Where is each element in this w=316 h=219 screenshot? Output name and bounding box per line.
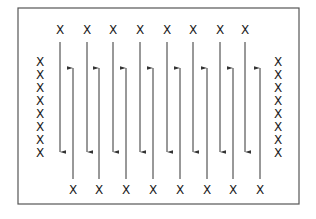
left-x-marker: X: [36, 133, 44, 147]
bottom-x-marker: X: [176, 183, 184, 197]
right-x-marker: X: [274, 94, 282, 108]
flow-diagram: XXXXXXXXXXXXXXXXXXXXXXXXXXXXXXXX: [0, 0, 316, 219]
arrows: [60, 42, 260, 179]
right-x-marker: X: [274, 107, 282, 121]
bottom-x-marker: X: [149, 183, 157, 197]
right-x-marker: X: [274, 55, 282, 69]
left-x-marker: X: [36, 55, 44, 69]
right-x-marker: X: [274, 133, 282, 147]
bottom-x-marker: X: [256, 183, 264, 197]
left-x-marker: X: [36, 146, 44, 160]
left-x-marker: X: [36, 107, 44, 121]
top-x-marker: X: [216, 23, 224, 37]
right-x-marker: X: [274, 68, 282, 82]
right-x-marker: X: [274, 120, 282, 134]
top-x-marker: X: [136, 23, 144, 37]
bottom-x-marker: X: [95, 183, 103, 197]
top-x-marker: X: [163, 23, 171, 37]
top-x-marker: X: [83, 23, 91, 37]
left-x-marker: X: [36, 94, 44, 108]
top-x-marker: X: [241, 23, 249, 37]
top-x-marker: X: [109, 23, 117, 37]
left-x-marker: X: [36, 81, 44, 95]
bottom-x-marker: X: [203, 183, 211, 197]
top-x-marker: X: [56, 23, 64, 37]
right-x-marker: X: [274, 81, 282, 95]
left-x-marker: X: [36, 120, 44, 134]
top-x-marker: X: [189, 23, 197, 37]
bottom-x-marker: X: [69, 183, 77, 197]
left-x-marker: X: [36, 68, 44, 82]
right-x-marker: X: [274, 146, 282, 160]
bottom-x-marker: X: [229, 183, 237, 197]
bottom-x-marker: X: [122, 183, 130, 197]
